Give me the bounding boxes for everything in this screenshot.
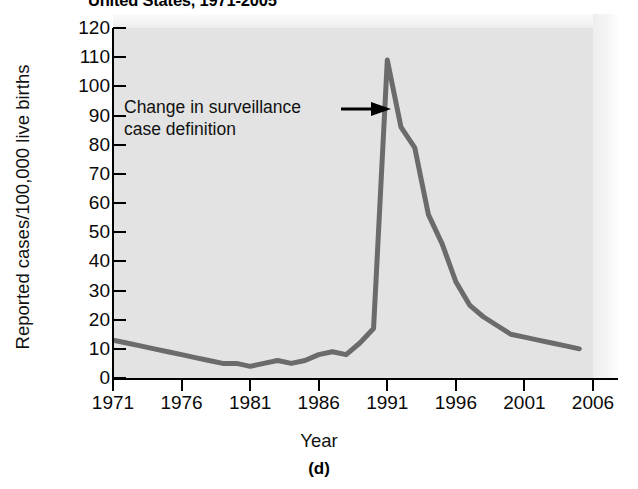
x-tick-mark xyxy=(592,380,594,391)
y-tick: 20 xyxy=(22,308,126,332)
annotation-text: Change in surveillance case definition xyxy=(124,96,301,140)
y-tick-mark xyxy=(113,85,126,87)
y-tick-label: 20 xyxy=(36,308,110,332)
y-tick: 90 xyxy=(22,104,126,128)
y-tick-label: 110 xyxy=(36,45,110,69)
y-tick-mark xyxy=(113,202,126,204)
y-tick-label: 0 xyxy=(36,366,110,390)
y-tick-mark xyxy=(113,377,126,379)
y-tick: 120 xyxy=(22,16,126,40)
y-tick-mark xyxy=(113,173,126,175)
arrow-right-icon xyxy=(341,99,393,119)
y-tick: 80 xyxy=(22,133,126,157)
plot-block-right-face xyxy=(593,14,617,379)
x-axis-line xyxy=(112,378,618,380)
y-tick-label: 70 xyxy=(36,162,110,186)
y-tick: 70 xyxy=(22,162,126,186)
y-tick-label: 120 xyxy=(36,16,110,40)
y-tick-label: 50 xyxy=(36,220,110,244)
x-axis-title: Year xyxy=(0,430,638,452)
y-tick-label: 80 xyxy=(36,133,110,157)
chart-title: United States, 1971-2005 xyxy=(88,0,418,10)
y-tick: 100 xyxy=(22,74,126,98)
y-tick-label: 30 xyxy=(36,279,110,303)
x-tick-mark xyxy=(112,380,114,391)
panel-label: (d) xyxy=(0,459,638,479)
y-tick: 110 xyxy=(22,45,126,69)
chart-figure: United States, 1971-2005 Reported cases/… xyxy=(0,0,638,489)
y-tick-label: 90 xyxy=(36,104,110,128)
y-tick-mark xyxy=(113,319,126,321)
y-tick-mark xyxy=(113,260,126,262)
y-tick-label: 40 xyxy=(36,249,110,273)
x-tick-mark xyxy=(249,380,251,391)
y-tick-mark xyxy=(113,290,126,292)
plot-block-3d xyxy=(113,14,617,379)
y-tick-mark xyxy=(113,27,126,29)
y-tick-mark xyxy=(113,231,126,233)
y-tick-label: 100 xyxy=(36,74,110,98)
y-tick-label: 10 xyxy=(36,337,110,361)
annotation-line-2: case definition xyxy=(124,118,301,140)
y-tick: 10 xyxy=(22,337,126,361)
y-tick: 0 xyxy=(22,366,126,390)
y-tick-mark xyxy=(113,56,126,58)
y-tick: 30 xyxy=(22,279,126,303)
plot-area xyxy=(113,28,593,378)
y-tick: 40 xyxy=(22,249,126,273)
x-tick-mark xyxy=(386,380,388,391)
x-tick-label: 2006 xyxy=(548,392,638,414)
x-tick-mark xyxy=(523,380,525,391)
x-tick-mark xyxy=(455,380,457,391)
y-tick-label: 60 xyxy=(36,191,110,215)
y-tick: 60 xyxy=(22,191,126,215)
x-tick-mark xyxy=(181,380,183,391)
x-tick-mark xyxy=(318,380,320,391)
y-tick: 50 xyxy=(22,220,126,244)
annotation-line-1: Change in surveillance xyxy=(124,97,301,117)
y-tick-mark xyxy=(113,348,126,350)
y-tick-mark xyxy=(113,144,126,146)
data-line-svg xyxy=(113,28,593,378)
